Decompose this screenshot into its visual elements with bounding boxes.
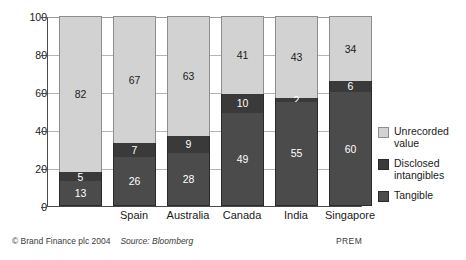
bar-stack-0[interactable]: 82 5 13 — [59, 16, 102, 206]
bar-stack-singapore[interactable]: 34 6 60 — [329, 16, 372, 206]
bar-segment-tangible-spain[interactable]: 26 — [113, 157, 156, 206]
x-axis-labels: Spain Australia Canada India Singapore — [47, 209, 362, 229]
bar-segment-unrecorded-australia[interactable]: 63 — [167, 16, 210, 136]
bar-value-unrecorded-singapore: 34 — [345, 44, 357, 54]
bar-value-unrecorded-india: 43 — [291, 52, 303, 62]
legend-swatch-disclosed-icon — [378, 159, 389, 170]
bar-value-disclosed-australia: 9 — [186, 139, 192, 149]
bar-segment-disclosed-spain[interactable]: 7 — [113, 143, 156, 156]
bar-segment-disclosed-0[interactable]: 5 — [59, 172, 102, 182]
bar-value-tangible-australia: 28 — [183, 174, 195, 184]
bar-value-tangible-0: 13 — [75, 188, 87, 198]
bar-segment-disclosed-australia[interactable]: 9 — [167, 136, 210, 153]
bar-segment-tangible-canada[interactable]: 49 — [221, 113, 264, 206]
legend-swatch-tangible-icon — [378, 191, 389, 202]
bars-group: 82 5 13 67 7 26 — [48, 18, 361, 206]
bar-stack-spain[interactable]: 67 7 26 — [113, 16, 156, 206]
bar-segment-unrecorded-spain[interactable]: 67 — [113, 16, 156, 143]
legend-label-tangible: Tangible — [394, 190, 433, 202]
footer-notes: © Brand Finance plc 2004Source: Bloomber… — [12, 236, 193, 246]
bar-value-tangible-singapore: 60 — [345, 144, 357, 154]
footer-imprint: PREM — [336, 236, 362, 246]
legend-item-tangible[interactable]: Tangible — [378, 190, 464, 202]
bar-segment-tangible-0[interactable]: 13 — [59, 181, 102, 206]
bar-segment-tangible-australia[interactable]: 28 — [167, 153, 210, 206]
bar-value-tangible-canada: 49 — [237, 154, 249, 164]
bar-segment-disclosed-canada[interactable]: 10 — [221, 94, 264, 113]
bar-value-tangible-spain: 26 — [129, 176, 141, 186]
bar-stack-canada[interactable]: 41 10 49 — [221, 16, 264, 206]
footer-source: Source: Bloomberg — [120, 236, 193, 246]
bar-stack-australia[interactable]: 63 9 28 — [167, 16, 210, 206]
stacked-bar-chart-figure: 100 80 60 40 20 0 82 5 — [0, 0, 466, 260]
footer-copyright: © Brand Finance plc 2004 — [12, 236, 110, 246]
legend-label-disclosed-intangibles: Disclosedintangibles — [394, 158, 444, 181]
bar-segment-tangible-india[interactable]: 55 — [275, 102, 318, 207]
x-axis-label-singapore: Singapore — [312, 209, 388, 222]
plot-area: 82 5 13 67 7 26 — [47, 17, 362, 207]
y-tick-mark-0 — [41, 207, 47, 208]
bar-segment-unrecorded-singapore[interactable]: 34 — [329, 16, 372, 81]
bar-value-disclosed-spain: 7 — [132, 145, 138, 155]
legend-item-unrecorded-value[interactable]: Unrecordedvalue — [378, 126, 464, 149]
bar-segment-unrecorded-india[interactable]: 43 — [275, 16, 318, 98]
legend-item-disclosed-intangibles[interactable]: Disclosedintangibles — [378, 158, 464, 181]
bar-stack-india[interactable]: 43 2 55 — [275, 16, 318, 206]
legend-swatch-unrecorded-icon — [378, 127, 389, 138]
bar-segment-unrecorded-0[interactable]: 82 — [59, 16, 102, 172]
bar-segment-disclosed-singapore[interactable]: 6 — [329, 81, 372, 92]
bar-value-disclosed-0: 5 — [78, 172, 84, 182]
bar-value-unrecorded-canada: 41 — [237, 50, 249, 60]
legend-label-unrecorded-value: Unrecordedvalue — [394, 126, 449, 149]
legend-label-unrecorded-line1: Unrecorded — [394, 125, 449, 137]
legend-label-disclosed-line2: intangibles — [394, 169, 444, 181]
bar-value-unrecorded-australia: 63 — [183, 71, 195, 81]
bar-segment-tangible-singapore[interactable]: 60 — [329, 92, 372, 206]
bar-value-disclosed-canada: 10 — [237, 98, 249, 108]
bar-segment-unrecorded-canada[interactable]: 41 — [221, 16, 264, 94]
bar-value-disclosed-singapore: 6 — [348, 81, 354, 91]
legend-label-unrecorded-line2: value — [394, 137, 419, 149]
bar-value-unrecorded-spain: 67 — [129, 75, 141, 85]
bar-value-tangible-india: 55 — [291, 148, 303, 158]
bar-value-unrecorded-0: 82 — [75, 89, 87, 99]
legend-label-disclosed-line1: Disclosed — [394, 157, 440, 169]
y-axis: 100 80 60 40 20 0 — [0, 17, 47, 207]
legend: Unrecordedvalue Disclosedintangibles Tan… — [378, 126, 464, 211]
